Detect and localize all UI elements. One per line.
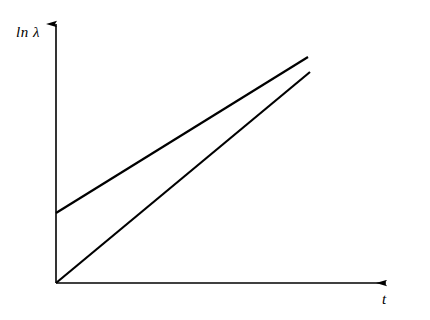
- axes-group: [56, 24, 386, 283]
- series-line-upper: [56, 57, 308, 213]
- x-axis-label: t: [382, 291, 386, 308]
- data-series-group: [56, 57, 310, 283]
- line-chart-plot: [0, 0, 430, 320]
- y-axis-label: ln λ: [16, 24, 40, 41]
- series-line-lower: [56, 72, 310, 283]
- figure-root: ln λ t: [0, 0, 430, 320]
